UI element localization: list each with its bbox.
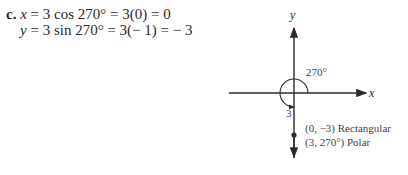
rect-coords-label: (0, −3) Rectangular [305, 122, 391, 135]
x-axis-label: x [368, 86, 375, 100]
polar-coords-label: (3, 270°) Polar [305, 136, 371, 149]
radius-label: 3 [286, 107, 292, 119]
angle-label: 270° [306, 66, 327, 78]
polar-figure: x y 270° 3 (0, −3) Rectangular (3, 270°)… [0, 0, 408, 175]
y-axis-label: y [289, 8, 296, 22]
point-marker [291, 132, 296, 137]
